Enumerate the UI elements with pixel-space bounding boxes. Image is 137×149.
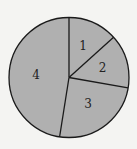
slice-label-2: 2 xyxy=(99,61,107,75)
pie-slices xyxy=(9,18,129,138)
pie-chart: 1234 xyxy=(0,0,137,149)
slice-label-3: 3 xyxy=(84,97,92,111)
slice-label-4: 4 xyxy=(32,68,40,82)
slice-label-1: 1 xyxy=(79,39,87,53)
